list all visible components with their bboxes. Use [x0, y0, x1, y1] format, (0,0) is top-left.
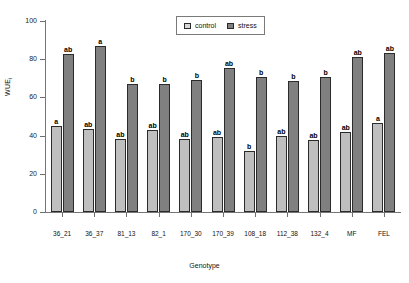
bar-significance-letter: ab: [225, 60, 233, 68]
y-axis-tick-label: 80: [13, 53, 37, 64]
x-axis-tick-label: FEL: [378, 230, 390, 237]
legend-item-control: control: [184, 22, 216, 30]
x-axis-tick-mark: [352, 213, 353, 217]
x-axis-tick-mark: [384, 213, 385, 217]
bar-control: ab: [308, 140, 319, 212]
legend-swatch-stress: [227, 23, 234, 29]
bar-stress: b: [159, 84, 170, 212]
bar-significance-letter: ab: [354, 49, 362, 57]
bar-group: abb: [308, 21, 331, 212]
x-axis-tick-mark: [320, 213, 321, 217]
x-axis-tick-label: MF: [347, 230, 356, 237]
bar-significance-letter: ab: [309, 132, 317, 140]
legend-label-control: control: [195, 22, 216, 30]
bar-control: ab: [179, 139, 190, 212]
x-axis-tick-mark: [287, 213, 288, 217]
x-axis-tick-mark: [94, 213, 95, 217]
bar-significance-letter: b: [162, 76, 166, 84]
y-axis-tick-label: 20: [13, 168, 37, 179]
bar-control: ab: [83, 129, 94, 212]
x-axis-tick-mark: [159, 213, 160, 217]
bar-control: a: [372, 123, 383, 212]
bar-group: aab: [51, 21, 74, 212]
y-axis-tick-mark: [40, 136, 45, 137]
bar-significance-letter: b: [259, 69, 263, 77]
y-axis-tick-mark: [40, 174, 45, 175]
x-axis-tick-label: 112_38: [277, 230, 298, 237]
bar-stress: b: [320, 77, 331, 212]
bar-stress: b: [127, 84, 138, 212]
bar-significance-letter: b: [291, 73, 295, 81]
legend-swatch-control: [184, 23, 191, 29]
bar-group: aba: [83, 21, 106, 212]
x-axis-tick-label: 170_39: [212, 230, 234, 237]
bar-stress: b: [256, 77, 267, 212]
bar-control: b: [244, 151, 255, 212]
bar-group: bb: [244, 21, 267, 212]
y-axis-title-subscript: i: [7, 77, 13, 78]
legend-label-stress: stress: [238, 22, 257, 30]
bar-significance-letter: b: [195, 72, 199, 80]
bar-group: aab: [372, 21, 395, 212]
bar-significance-letter: a: [54, 118, 58, 126]
bar-significance-letter: ab: [342, 124, 350, 132]
bar-group: abb: [179, 21, 202, 212]
bar-control: a: [51, 126, 62, 212]
y-axis-tick-label: 0: [13, 206, 37, 217]
bar-group: abab: [340, 21, 363, 212]
chart-legend: controlstress: [176, 16, 265, 35]
y-axis-tick-label: 100: [13, 15, 37, 26]
bar-stress: ab: [384, 53, 395, 212]
plot-area: aababaabbabbabbababbbabbabbababaab: [46, 21, 400, 212]
y-axis-tick-mark: [40, 212, 45, 213]
bar-control: ab: [212, 137, 223, 212]
y-axis-tick-label: 40: [13, 130, 37, 141]
bar-group: abb: [276, 21, 299, 212]
x-axis-tick-mark: [191, 213, 192, 217]
x-axis-tick-mark: [62, 213, 63, 217]
bar-chart: WUEi 020406080100 aababaabbabbabbababbba…: [0, 0, 409, 283]
x-axis-tick-mark: [126, 213, 127, 217]
x-axis-tick-mark: [255, 213, 256, 217]
bar-significance-letter: ab: [116, 131, 124, 139]
x-axis-tick-label: 108_18: [244, 230, 266, 237]
y-axis-tick-mark: [40, 97, 45, 98]
bar-group: abab: [212, 21, 235, 212]
y-axis-tick-mark: [40, 21, 45, 22]
y-axis-tick-label: 60: [13, 91, 37, 102]
bar-control: ab: [147, 130, 158, 212]
bar-control: ab: [340, 132, 351, 212]
bar-significance-letter: ab: [181, 131, 189, 139]
bar-significance-letter: ab: [213, 129, 221, 137]
y-axis-title-text: WUE: [4, 79, 11, 96]
bar-significance-letter: b: [323, 69, 327, 77]
bar-stress: a: [95, 46, 106, 212]
x-axis-tick-label: 36_21: [53, 230, 71, 237]
x-axis-title: Genotype: [0, 262, 409, 269]
bar-significance-letter: ab: [277, 128, 285, 136]
bar-significance-letter: ab: [386, 45, 394, 53]
x-axis-tick-label: 81_13: [117, 230, 135, 237]
legend-item-stress: stress: [227, 22, 257, 30]
bar-control: ab: [115, 139, 126, 212]
bar-significance-letter: b: [247, 143, 251, 151]
y-axis-title: WUEi: [4, 77, 13, 96]
bar-stress: ab: [63, 54, 74, 212]
x-axis-tick-label: 170_30: [180, 230, 202, 237]
bar-significance-letter: a: [376, 115, 380, 123]
bar-significance-letter: a: [98, 38, 102, 46]
bar-significance-letter: b: [130, 76, 134, 84]
bar-stress: b: [288, 81, 299, 212]
bar-group: abb: [147, 21, 170, 212]
x-axis-tick-label: 36_37: [85, 230, 103, 237]
bar-significance-letter: ab: [64, 46, 72, 54]
bar-significance-letter: ab: [149, 122, 157, 130]
bar-control: ab: [276, 136, 287, 212]
bar-stress: ab: [352, 57, 363, 212]
x-axis-tick-mark: [223, 213, 224, 217]
y-axis-tick-mark: [40, 59, 45, 60]
bar-significance-letter: ab: [84, 121, 92, 129]
bar-stress: b: [191, 80, 202, 212]
bar-stress: ab: [224, 68, 235, 212]
x-axis-tick-label: 132_4: [310, 230, 328, 237]
